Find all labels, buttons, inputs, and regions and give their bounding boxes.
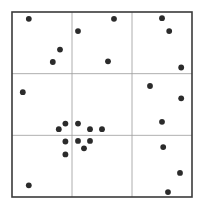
data-point: [87, 138, 93, 144]
data-point: [105, 58, 111, 64]
data-point: [159, 15, 165, 21]
data-point: [75, 121, 81, 127]
data-point: [166, 28, 172, 34]
data-point: [75, 28, 81, 34]
data-point: [50, 59, 56, 65]
data-point: [87, 126, 93, 132]
data-point: [75, 138, 81, 144]
data-point: [178, 65, 184, 71]
data-point: [63, 121, 69, 127]
data-point: [57, 47, 63, 53]
quadrat-scatter-plot: [0, 0, 201, 207]
data-point: [147, 83, 153, 89]
data-point: [63, 139, 69, 145]
data-point: [177, 170, 183, 176]
data-point: [99, 126, 105, 132]
data-point: [165, 189, 171, 195]
data-point: [81, 145, 87, 151]
data-point: [56, 126, 62, 132]
data-point: [178, 95, 184, 101]
data-point: [26, 182, 32, 188]
data-point: [160, 144, 166, 150]
data-point: [63, 152, 69, 158]
data-point: [159, 119, 165, 125]
data-point: [111, 16, 117, 22]
data-point: [20, 89, 26, 95]
data-point: [26, 16, 32, 22]
